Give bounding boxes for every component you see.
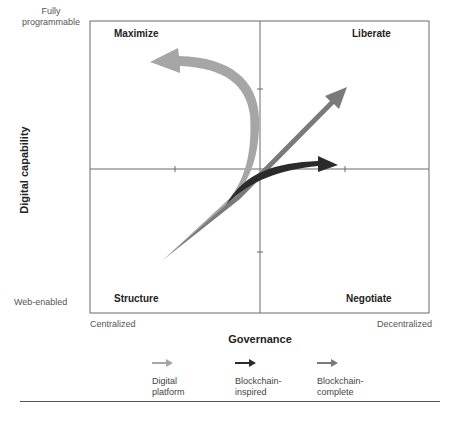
x-axis-max-label: Decentralized bbox=[370, 319, 432, 329]
legend-label: Blockchain-complete bbox=[317, 376, 377, 398]
y-axis-title: Digital capability bbox=[18, 126, 30, 213]
mid-arrow-icon bbox=[317, 358, 339, 368]
quadrant-maximize: Maximize bbox=[114, 28, 158, 39]
x-axis-min-label: Centralized bbox=[90, 319, 136, 329]
legend-item-blockchain-inspired: Blockchain-inspired bbox=[235, 354, 315, 398]
legend-item-digital-platform: Digital platform bbox=[152, 354, 232, 398]
y-axis-max-label: Fully programmable bbox=[18, 6, 84, 28]
quadrant-structure: Structure bbox=[114, 293, 158, 304]
dark-arrow-icon bbox=[235, 358, 257, 368]
legend-label: Blockchain-inspired bbox=[235, 376, 295, 398]
digital-platform-arrow-icon bbox=[150, 48, 259, 260]
legend-label: Digital platform bbox=[152, 376, 202, 398]
legend-item-blockchain-complete: Blockchain-complete bbox=[317, 354, 397, 398]
bottom-divider bbox=[20, 401, 440, 402]
quadrant-liberate: Liberate bbox=[352, 28, 391, 39]
light-arrow-icon bbox=[152, 358, 174, 368]
y-axis-min-label: Web-enabled bbox=[14, 297, 67, 307]
x-axis-title: Governance bbox=[220, 333, 300, 345]
quadrant-negotiate: Negotiate bbox=[346, 293, 392, 304]
